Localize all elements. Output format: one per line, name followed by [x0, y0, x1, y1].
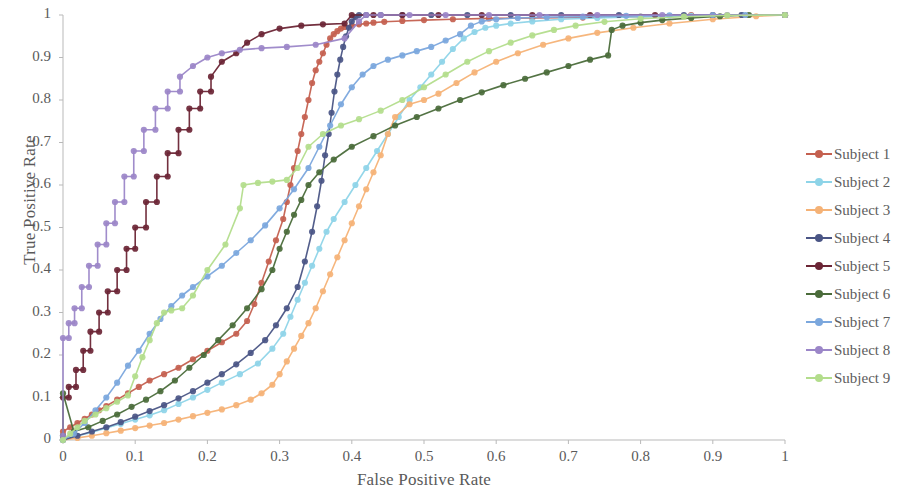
series-marker	[594, 30, 600, 36]
series-marker	[87, 348, 93, 354]
series-marker	[479, 18, 485, 24]
series-marker	[74, 424, 80, 430]
series-marker	[443, 12, 449, 18]
plot-canvas	[0, 0, 908, 499]
series-marker	[619, 23, 625, 29]
series-marker	[341, 199, 347, 205]
series-marker	[112, 220, 118, 226]
legend-item-subject-9[interactable]: Subject 9	[806, 364, 908, 392]
series-marker	[105, 309, 111, 315]
series-marker	[60, 437, 66, 443]
series-marker	[443, 37, 449, 43]
series-marker	[175, 395, 181, 401]
legend-item-subject-3[interactable]: Subject 3	[806, 196, 908, 224]
series-marker	[753, 13, 759, 19]
series-marker	[233, 331, 239, 337]
series-marker	[219, 380, 225, 386]
series-marker	[204, 54, 210, 60]
series-marker	[258, 31, 264, 37]
y-tick-label: 0.9	[11, 48, 51, 65]
series-marker	[269, 179, 275, 185]
legend-item-subject-8[interactable]: Subject 8	[806, 336, 908, 364]
series-marker	[457, 31, 463, 37]
series-line	[63, 15, 785, 440]
legend-label: Subject 2	[834, 174, 890, 191]
series-marker	[320, 21, 326, 27]
series-marker	[284, 305, 290, 311]
series-marker	[323, 229, 329, 235]
series-marker	[100, 418, 106, 424]
series-marker	[86, 284, 92, 290]
series-marker	[157, 388, 163, 394]
series-marker	[237, 205, 243, 211]
series-7	[60, 12, 788, 443]
legend-swatch-icon	[806, 372, 832, 384]
series-marker	[186, 127, 192, 133]
legend-item-subject-2[interactable]: Subject 2	[806, 168, 908, 196]
series-marker	[197, 105, 203, 111]
series-marker	[80, 348, 86, 354]
series-marker	[177, 88, 183, 94]
series-marker	[421, 84, 427, 90]
series-marker	[123, 267, 129, 273]
legend-item-subject-7[interactable]: Subject 7	[806, 308, 908, 336]
series-marker	[309, 229, 315, 235]
series-marker	[421, 17, 427, 23]
series-marker	[280, 331, 286, 337]
series-marker	[302, 258, 308, 264]
series-marker	[143, 199, 149, 205]
series-marker	[782, 12, 788, 18]
legend-item-subject-5[interactable]: Subject 5	[806, 252, 908, 280]
series-marker	[331, 156, 337, 162]
legend: Subject 1Subject 2Subject 3Subject 4Subj…	[806, 140, 908, 392]
series-marker	[147, 408, 153, 414]
series-marker	[406, 12, 412, 18]
series-marker	[73, 384, 79, 390]
series-marker	[139, 354, 145, 360]
series-marker	[309, 263, 315, 269]
series-marker	[60, 335, 66, 341]
series-marker	[370, 20, 376, 26]
legend-marker-dot-icon	[815, 206, 823, 214]
series-marker	[71, 305, 77, 311]
series-marker	[295, 284, 301, 290]
series-marker	[273, 237, 279, 243]
series-marker	[298, 197, 304, 203]
series-marker	[96, 309, 102, 315]
series-marker	[468, 23, 474, 29]
series-marker	[87, 329, 93, 335]
series-marker	[334, 71, 340, 77]
series-marker	[161, 402, 167, 408]
legend-label: Subject 9	[834, 370, 890, 387]
legend-item-subject-4[interactable]: Subject 4	[806, 224, 908, 252]
series-marker	[244, 318, 250, 324]
series-marker	[143, 397, 149, 403]
series-marker	[337, 57, 343, 63]
series-marker	[291, 212, 297, 218]
series-marker	[327, 271, 333, 277]
series-marker	[92, 411, 98, 417]
series-marker	[515, 50, 521, 56]
series-marker	[298, 131, 304, 137]
x-tick-label: 0.6	[476, 448, 516, 465]
series-marker	[338, 101, 344, 107]
series-marker	[370, 169, 376, 175]
series-marker	[457, 97, 463, 103]
legend-swatch-icon	[806, 148, 832, 160]
y-axis-title: True Positive Rate	[20, 90, 40, 310]
series-marker	[154, 320, 160, 326]
series-6	[60, 12, 788, 439]
series-line	[63, 15, 785, 440]
legend-item-subject-6[interactable]: Subject 6	[806, 280, 908, 308]
series-marker	[334, 254, 340, 260]
series-marker	[143, 224, 149, 230]
series-marker	[392, 122, 398, 128]
legend-item-subject-1[interactable]: Subject 1	[806, 140, 908, 168]
series-marker	[378, 108, 384, 114]
series-marker	[284, 44, 290, 50]
series-marker	[414, 114, 420, 120]
series-marker	[244, 40, 250, 46]
x-axis-title: False Positive Rate	[63, 470, 785, 490]
series-marker	[219, 371, 225, 377]
series-marker	[453, 80, 459, 86]
